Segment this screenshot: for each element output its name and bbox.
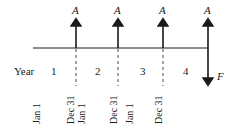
period-number-2: 2 xyxy=(95,65,101,77)
date-label: Jan 1 xyxy=(124,103,135,124)
payment-arrow-1: A xyxy=(71,4,79,48)
payment-arrow-3: A xyxy=(158,4,166,48)
year-row-label: Year xyxy=(14,65,35,77)
payment-arrow-2: A xyxy=(113,4,121,48)
period-number-1: 1 xyxy=(51,65,57,77)
payment-label: A xyxy=(203,4,211,16)
payment-label: A xyxy=(113,4,121,16)
payment-label: A xyxy=(158,4,166,16)
date-label: Jan 1 xyxy=(31,103,42,124)
date-label: Dec 31 xyxy=(65,95,76,124)
payment-arrow-4: A xyxy=(203,4,211,48)
future-value-label: F xyxy=(216,70,224,82)
date-label: Dec 31 xyxy=(153,95,164,124)
cash-flow-diagram: A A A A F Year 1 2 3 4 Jan 1 Dec 31 Jan … xyxy=(0,0,239,132)
date-label: Jan 1 xyxy=(76,103,87,124)
future-value-arrow: F xyxy=(208,48,224,82)
payment-label: A xyxy=(71,4,79,16)
date-label: Dec 31 xyxy=(108,95,119,124)
period-number-4: 4 xyxy=(183,65,189,77)
period-number-3: 3 xyxy=(140,65,146,77)
